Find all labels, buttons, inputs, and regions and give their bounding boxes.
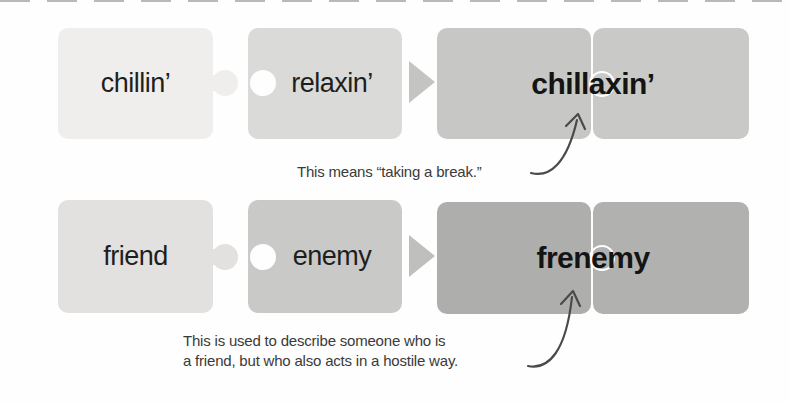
word-part2-row2: enemy (279, 243, 372, 270)
word-blend-row2: frenemy (437, 202, 749, 314)
word-blend-row1: chillaxin’ (437, 28, 749, 139)
annotation-row1: This means “taking a break.” (297, 162, 481, 182)
word-part2-row1: relaxin’ (277, 70, 373, 97)
annotation-row2-line2: a friend, but who also acts in a hostile… (183, 351, 458, 371)
result-triangle-icon-row2 (409, 235, 435, 277)
puzzle-piece-friend: friend (58, 200, 213, 313)
puzzle-notch-row2 (250, 244, 276, 270)
puzzle-notch-row1 (250, 70, 276, 96)
annotation-row2-line1: This is used to describe someone who is (183, 331, 458, 351)
annotation-row1-line1: This means “taking a break.” (297, 163, 481, 180)
word-part1-row1: chillin’ (101, 70, 171, 97)
word-blend-diagram: chillin’ relaxin’ chillaxin’ This means … (0, 0, 789, 404)
cropped-top-edge (0, 0, 789, 2)
word-part1-row2: friend (103, 243, 168, 270)
annotation-row2: This is used to describe someone who is … (183, 331, 458, 371)
puzzle-tab-row1 (212, 70, 238, 96)
puzzle-tab-row2 (212, 244, 238, 270)
result-triangle-icon-row1 (409, 61, 435, 103)
puzzle-piece-chillin: chillin’ (58, 28, 213, 139)
